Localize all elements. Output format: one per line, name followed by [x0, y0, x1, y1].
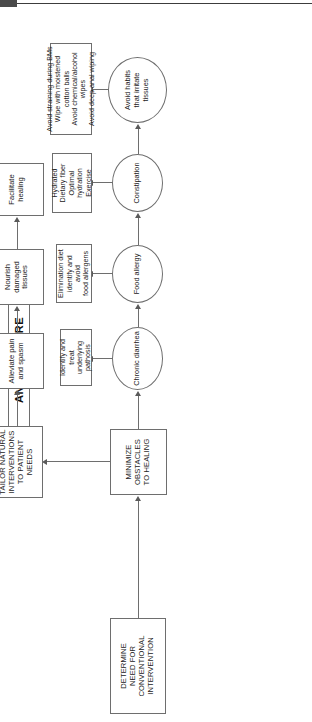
node-intervention-0[interactable]: Identify and treat underlying pathosis	[60, 329, 92, 386]
ellipse-obstacle-3[interactable]: Avoid habits that irritate tissues	[108, 57, 167, 123]
node-intervention-3[interactable]: Avoid straining during BMs Wipe with moi…	[50, 43, 92, 135]
edge-obstacle-2-to-intervention-2	[93, 182, 113, 183]
arrowhead-goal-1-to-2	[14, 217, 20, 222]
arrowhead-tailor-to-goal-0	[14, 390, 20, 395]
node-intervention-1[interactable]: Elimination diet identify and avoid food…	[56, 244, 92, 303]
node-intervention-2[interactable]: Hydrated Dietary fiber Optimal hydration…	[52, 153, 92, 213]
node-minimize-obstacles[interactable]: MINIMIZE OBSTACLES TO HEALING	[110, 429, 167, 495]
node-goal-2[interactable]: Facilitate healing	[0, 163, 44, 216]
edge-obstacle-1-to-intervention-1	[93, 273, 113, 274]
edge-minimize-to-tailor	[47, 461, 110, 462]
edge-obstacle-1-to-2	[138, 218, 139, 245]
ellipse-obstacle-0[interactable]: Chronic diarrhea	[112, 327, 163, 390]
arrowhead-obstacle-2-to-3	[135, 124, 141, 129]
edge-determine-to-minimize	[138, 501, 139, 618]
flowchart-canvas: ANAL FISSURE DETERMINE NEED FOR CONVENTI…	[0, 0, 312, 722]
node-determine-need[interactable]: DETERMINE NEED FOR CONVENTIONAL INTERVEN…	[110, 618, 166, 714]
edge-goal-0-to-1	[17, 311, 18, 333]
edge-tailor-to-goal-0	[17, 395, 18, 426]
edge-obstacle-0-to-1	[138, 309, 139, 327]
edge-minimize-to-chronic-diarrhea	[138, 396, 139, 429]
node-goal-0[interactable]: Alleviate pain and spasm	[0, 333, 44, 389]
edge-obstacle-2-to-3	[138, 129, 139, 154]
edge-goal-1-to-2	[17, 222, 18, 249]
arrowhead-obstacle-0-to-1	[135, 304, 141, 309]
arrowhead-determine-to-minimize	[135, 496, 141, 501]
ellipse-obstacle-2[interactable]: Constipation	[112, 154, 163, 212]
arrowhead-obstacle-1-to-2	[135, 213, 141, 218]
node-tailor-interventions[interactable]: TAILOR NATURAL INTERVENTIONS TO PATIENT …	[0, 426, 43, 498]
node-goal-1[interactable]: Nourish damaged tissues	[0, 249, 44, 305]
arrowhead-minimize-to-chronic-diarrhea	[135, 391, 141, 396]
arrowhead-goal-0-to-1	[14, 306, 20, 311]
ellipse-obstacle-1[interactable]: Food allergy	[112, 245, 163, 303]
edge-obstacle-0-to-intervention-0	[93, 358, 113, 359]
